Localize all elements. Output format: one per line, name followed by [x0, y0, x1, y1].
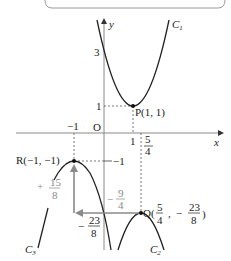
x-axis-label: x [213, 136, 219, 148]
q-x-den: 4 [157, 214, 163, 226]
svg-text:23: 23 [89, 214, 101, 226]
curve-c3-left-tail [38, 208, 48, 248]
tick-x-1: 1 [130, 135, 136, 147]
point-p-label: P(1, 1) [135, 106, 165, 119]
q-y-sign: − [176, 207, 182, 219]
svg-text:+: + [37, 180, 43, 192]
curve-c2-label: C2 [150, 243, 161, 257]
y-axis-label: y [108, 18, 114, 30]
tick-x-5-4-num: 5 [145, 133, 151, 145]
translation-arrows [74, 168, 141, 213]
q-suffix: ) [202, 208, 206, 221]
svg-text:8: 8 [91, 227, 97, 239]
horizontal-shift-label: − 9 4 [107, 187, 125, 211]
top-bracket [45, 0, 225, 8]
y-shift-label: − 23 8 [78, 214, 101, 239]
svg-text:9: 9 [118, 187, 124, 199]
tick-y-neg1: −1 [113, 155, 125, 167]
origin-label: O [93, 121, 101, 133]
curve-c1-label: C1 [172, 18, 183, 32]
y-axis-arrow-icon [101, 18, 107, 24]
q-y-num: 23 [189, 201, 201, 213]
q-prefix: Q( [143, 207, 155, 220]
svg-text:15: 15 [50, 176, 62, 188]
point-r-label: R(−1, −1) [16, 154, 60, 167]
x-axis-arrow-icon [218, 130, 224, 136]
svg-text:−: − [78, 220, 84, 232]
tick-y-1: 1 [96, 100, 102, 112]
curve-c1 [97, 20, 169, 106]
tick-x-5-4-den: 4 [145, 145, 151, 157]
graph-diagram: y x O C1 C3 C2 3 1 −1 1 5 4 −1 P(1, 1) R… [0, 0, 231, 261]
svg-text:8: 8 [52, 189, 58, 201]
svg-text:4: 4 [118, 199, 124, 211]
tick-x-neg1: −1 [67, 120, 79, 132]
curve-c3 [58, 161, 111, 250]
q-sep: , [168, 207, 171, 219]
point-r [72, 159, 76, 163]
q-y-den: 8 [191, 214, 197, 226]
vertical-shift-label: + 15 8 [37, 176, 62, 201]
tick-y-3: 3 [94, 46, 100, 58]
arrow-left-icon [75, 209, 83, 217]
curve-c3-label: C3 [25, 243, 36, 257]
svg-text:−: − [107, 193, 113, 205]
q-x-num: 5 [157, 201, 163, 213]
arrow-up-icon [70, 164, 78, 172]
